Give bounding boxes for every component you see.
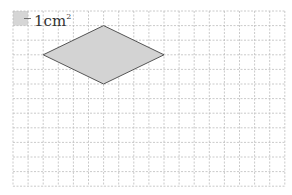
unit-legend: 1cm2 [34, 8, 71, 30]
grid-lines [13, 11, 285, 186]
unit-exponent: 2 [66, 12, 71, 21]
unit-label: 1cm [34, 12, 66, 30]
rhombus-shape [43, 26, 164, 84]
